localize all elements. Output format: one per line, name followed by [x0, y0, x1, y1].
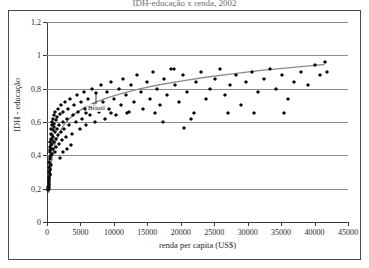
scatter-point: [69, 143, 73, 147]
scatter-point: [177, 100, 181, 104]
scatter-point: [57, 142, 61, 146]
scatter-point: [61, 150, 65, 154]
scatter-point: [70, 132, 74, 136]
scatter-point: [268, 67, 272, 71]
trendline-path: [49, 65, 325, 193]
scatter-point: [58, 156, 62, 160]
scatter-point: [155, 87, 159, 91]
scatter-point: [74, 120, 78, 124]
scatter-point: [68, 97, 72, 101]
x-axis-tick-label: 10000: [104, 228, 124, 237]
x-axis-tick: [281, 222, 282, 226]
x-axis-tick: [47, 222, 48, 226]
x-axis-tick-label: 25000: [204, 228, 224, 237]
y-axis-tick: [43, 122, 47, 123]
scatter-point: [61, 110, 65, 114]
scatter-point: [112, 97, 116, 101]
scatter-point: [262, 77, 266, 81]
y-axis-tick: [43, 22, 47, 23]
scatter-point: [93, 120, 97, 124]
scatter-point: [135, 73, 139, 77]
scatter-point: [165, 93, 169, 97]
x-axis-tick: [348, 222, 349, 226]
scatter-point: [62, 127, 66, 131]
y-axis-tick-label: 0,6: [31, 118, 41, 127]
scatter-point: [203, 97, 207, 101]
x-axis-tick-label: 40000: [305, 228, 325, 237]
scatter-point: [116, 87, 120, 91]
scatter-point: [218, 67, 222, 71]
scatter-point: [56, 107, 60, 111]
scatter-point: [312, 63, 316, 67]
scatter-point: [324, 70, 328, 74]
x-axis-tick-label: 35000: [271, 228, 291, 237]
scatter-point: [61, 120, 65, 124]
scatter-point: [118, 103, 122, 107]
scatter-point: [102, 117, 106, 121]
scatter-point: [65, 117, 69, 121]
scatter-point: [66, 107, 70, 111]
scatter-point: [153, 111, 157, 115]
scatter-point: [151, 70, 155, 74]
x-axis-line: [47, 222, 348, 223]
x-axis-tick: [80, 222, 81, 226]
scatter-point: [252, 111, 256, 115]
scatter-point: [250, 70, 254, 74]
x-axis-title: renda per capita (US$): [47, 240, 348, 250]
y-axis-tick: [43, 89, 47, 90]
scatter-point: [189, 117, 193, 121]
y-axis-tick-label: 0,8: [31, 84, 41, 93]
scatter-point: [282, 111, 286, 115]
scatter-point: [75, 93, 79, 97]
x-axis-tick-label: 30000: [238, 228, 258, 237]
scatter-point: [213, 77, 217, 81]
y-axis-tick-label: 0,4: [31, 151, 41, 160]
scatter-point: [129, 83, 133, 87]
scatter-point: [121, 77, 125, 81]
scatter-point: [274, 87, 278, 91]
x-axis-tick-label: 15000: [137, 228, 157, 237]
scatter-point: [182, 126, 186, 130]
plot-area: 00,20,40,60,811,205000100001500020000250…: [47, 22, 348, 222]
scatter-point: [158, 103, 162, 107]
scatter-point: [63, 100, 67, 104]
x-axis-tick: [248, 222, 249, 226]
x-axis-tick: [147, 222, 148, 226]
scatter-point: [292, 80, 296, 84]
scatter-point: [181, 73, 185, 77]
scatter-point: [76, 110, 80, 114]
x-axis-tick: [315, 222, 316, 226]
scatter-point: [318, 73, 322, 77]
x-axis-tick-label: 45000: [338, 228, 358, 237]
scatter-point: [234, 73, 238, 77]
scatter-point: [225, 111, 229, 115]
scatter-point: [82, 90, 86, 94]
scatter-point: [194, 80, 198, 84]
gridline-y: [47, 155, 348, 156]
x-axis-tick: [114, 222, 115, 226]
scatter-point: [172, 67, 176, 71]
scatter-point: [192, 111, 196, 115]
x-axis-tick: [181, 222, 182, 226]
scatter-point: [79, 100, 83, 104]
x-axis-tick-label: 0: [45, 228, 49, 237]
scatter-point: [108, 111, 112, 115]
scatter-point: [98, 83, 102, 87]
scatter-point: [161, 120, 165, 124]
scatter-point: [286, 97, 290, 101]
scatter-point: [280, 73, 284, 77]
scatter-point: [256, 90, 260, 94]
chart-root: IDH-educação x renda, 2002 IDH - educaçã…: [0, 0, 369, 268]
scatter-point: [299, 70, 303, 74]
scatter-point: [132, 100, 136, 104]
gridline-y: [47, 22, 348, 23]
scatter-point: [244, 80, 248, 84]
y-axis-tick: [43, 155, 47, 156]
scatter-point: [88, 113, 92, 117]
scatter-point: [306, 83, 310, 87]
scatter-point: [114, 113, 118, 117]
scatter-point: [208, 87, 212, 91]
annotation-label-brasil: Brasil: [87, 104, 106, 112]
scatter-point: [67, 123, 71, 127]
scatter-point: [139, 90, 143, 94]
